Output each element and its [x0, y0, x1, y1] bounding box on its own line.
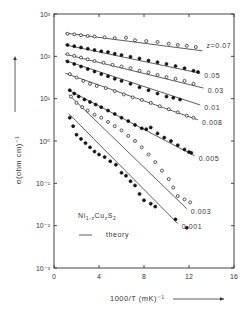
- open-marker: [158, 105, 161, 108]
- filled-marker: [66, 60, 69, 63]
- open-marker: [127, 134, 130, 137]
- open-marker: [81, 106, 84, 109]
- series-z-0.001: [68, 113, 188, 229]
- filled-marker: [73, 62, 76, 65]
- open-marker: [93, 113, 96, 116]
- filled-marker: [80, 137, 83, 140]
- series-label: 0.001: [182, 223, 203, 230]
- filled-marker: [156, 132, 159, 135]
- open-marker: [113, 125, 116, 128]
- x-tick-label: 0: [52, 273, 56, 280]
- theory-line: [65, 33, 202, 51]
- open-marker: [86, 35, 89, 38]
- filled-marker: [80, 46, 83, 49]
- open-marker: [66, 32, 69, 35]
- open-marker: [120, 65, 123, 68]
- open-marker: [113, 90, 116, 93]
- series-label: z=0.07: [207, 42, 232, 49]
- filled-marker: [154, 205, 157, 208]
- filled-marker: [127, 120, 130, 123]
- open-marker: [140, 98, 143, 101]
- open-marker: [165, 76, 168, 79]
- legend-compound: Ni1-zCuzS2: [78, 212, 117, 221]
- open-marker: [107, 120, 110, 123]
- open-marker: [140, 146, 143, 149]
- theory-line: [69, 90, 195, 156]
- filled-marker: [147, 89, 150, 92]
- y-tick-label: 10⁻³: [36, 265, 51, 272]
- open-marker: [138, 69, 141, 72]
- series-label: 0.008: [202, 119, 223, 126]
- open-marker: [134, 140, 137, 143]
- open-marker: [120, 129, 123, 132]
- open-marker: [73, 54, 76, 57]
- open-marker: [167, 108, 170, 111]
- y-axis-arrowhead-icon: [13, 56, 17, 60]
- filled-marker: [94, 103, 97, 106]
- filled-marker: [143, 199, 146, 202]
- open-marker: [185, 44, 188, 47]
- series-label: 0.003: [191, 208, 212, 215]
- filled-marker: [84, 142, 87, 145]
- filled-marker: [156, 92, 159, 95]
- open-marker: [75, 76, 78, 79]
- x-axis-ticks: 0481216: [52, 14, 238, 280]
- data-series: [65, 32, 203, 229]
- y-tick-label: 10⁻¹: [36, 180, 51, 187]
- open-marker: [167, 178, 170, 181]
- filled-marker: [129, 82, 132, 85]
- filled-marker: [107, 109, 110, 112]
- open-marker: [125, 36, 128, 39]
- x-tick-label: 8: [142, 273, 146, 280]
- filled-marker: [138, 86, 141, 89]
- series-z-0.03: [65, 53, 203, 88]
- open-marker: [147, 71, 150, 74]
- filled-marker: [183, 148, 186, 151]
- series-z-0.07: [65, 32, 202, 50]
- open-marker: [66, 53, 69, 56]
- open-marker: [192, 82, 195, 85]
- filled-marker: [149, 202, 152, 205]
- plot-frame: [54, 14, 234, 268]
- open-marker: [104, 87, 107, 90]
- filled-marker: [80, 65, 83, 68]
- filled-marker: [109, 160, 112, 163]
- filled-marker: [107, 51, 110, 54]
- open-marker: [73, 33, 76, 36]
- filled-marker: [93, 48, 96, 51]
- x-tick-label: 4: [97, 273, 101, 280]
- filled-marker: [68, 89, 71, 92]
- filled-marker: [165, 62, 168, 65]
- filled-marker: [113, 112, 116, 115]
- filled-marker: [98, 153, 101, 156]
- open-marker: [176, 195, 179, 198]
- filled-marker: [100, 73, 103, 76]
- open-marker: [176, 43, 179, 46]
- filled-marker: [86, 47, 89, 50]
- open-marker: [134, 39, 137, 42]
- series-z-0.008: [65, 73, 198, 120]
- x-tick-label: 12: [185, 273, 193, 280]
- filled-marker: [89, 146, 92, 149]
- series-label: 0.03: [208, 87, 224, 94]
- open-marker: [189, 201, 192, 204]
- filled-marker: [125, 174, 128, 177]
- open-marker: [122, 93, 125, 96]
- y-tick-label: 10⁻²: [36, 222, 51, 229]
- series-z-0.005: [68, 89, 194, 156]
- filled-marker: [140, 127, 143, 130]
- open-marker: [82, 79, 85, 82]
- filled-marker: [93, 150, 96, 153]
- open-marker: [149, 101, 152, 104]
- series-z-0.003: [69, 94, 192, 208]
- x-tick-label: 16: [230, 273, 238, 280]
- filled-marker: [89, 101, 92, 104]
- open-marker: [111, 63, 114, 66]
- filled-marker: [73, 92, 76, 95]
- open-marker: [156, 40, 159, 43]
- filled-marker: [120, 79, 123, 82]
- filled-marker: [176, 144, 179, 147]
- filled-marker: [120, 54, 123, 57]
- filled-marker: [93, 70, 96, 73]
- open-marker: [174, 77, 177, 80]
